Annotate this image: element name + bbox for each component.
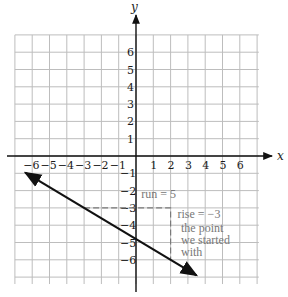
- annotation-text: with: [181, 245, 202, 259]
- y-tick-label: 3: [127, 98, 134, 111]
- x-tick-label: 1: [150, 159, 157, 172]
- coordinate-plane: −6−5−4−3−2−1123456654321−1−2−3−4−5−6 run…: [0, 0, 288, 297]
- x-tick-label: −4: [58, 159, 74, 172]
- y-tick-label: 5: [127, 64, 134, 77]
- y-axis-label: y: [130, 0, 138, 14]
- axes: [7, 15, 272, 292]
- x-tick-label: 6: [237, 159, 244, 172]
- annotation-text: run = 5: [141, 187, 176, 201]
- y-tick-label: −2: [120, 185, 136, 198]
- y-tick-label: 6: [127, 46, 134, 59]
- y-tick-label: 2: [127, 115, 134, 128]
- x-tick-label: 5: [220, 159, 227, 172]
- annotation-text: rise = −3: [178, 207, 221, 221]
- x-tick-label: −6: [23, 159, 39, 172]
- x-tick-label: 2: [168, 159, 175, 172]
- x-axis-label: x: [277, 149, 284, 163]
- y-tick-label: 4: [127, 81, 134, 94]
- x-tick-label: 3: [185, 159, 192, 172]
- y-tick-label: −6: [120, 254, 136, 267]
- annotations: run = 5rise = −3the pointwe startedwith: [141, 187, 230, 260]
- y-tick-label: −1: [120, 167, 136, 180]
- x-tick-label: −5: [41, 159, 57, 172]
- x-tick-label: −2: [92, 159, 108, 172]
- y-tick-label: 1: [127, 133, 134, 146]
- x-tick-label: −3: [75, 159, 91, 172]
- x-tick-label: 4: [202, 159, 209, 172]
